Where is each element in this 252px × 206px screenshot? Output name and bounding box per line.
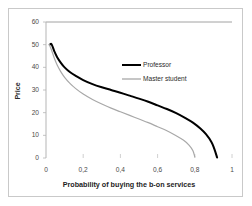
y-tick-label: 40: [21, 63, 39, 70]
y-tick-label: 50: [21, 41, 39, 48]
y-tick-label: 30: [21, 86, 39, 93]
legend-label-master-student: Master student: [143, 75, 187, 82]
y-tick-label: 20: [21, 109, 39, 116]
legend-label-professor: Professor: [143, 61, 171, 68]
x-tick-label: 0,6: [147, 166, 169, 173]
x-tick-label: 0: [35, 166, 57, 173]
series-line-professor: [50, 44, 217, 158]
series-line-master-student: [49, 45, 194, 157]
demand-curve-chart: [0, 0, 252, 206]
series-paths: [49, 44, 217, 158]
y-tick-label: 0: [21, 154, 39, 161]
x-tick-label: 0,8: [184, 166, 206, 173]
x-tick-label: 0,2: [72, 166, 94, 173]
x-tick-label: 0,4: [109, 166, 131, 173]
legend-swatches: [122, 65, 141, 79]
x-axis-title: Probability of buying the b-on services: [34, 180, 224, 189]
y-tick-label: 10: [21, 131, 39, 138]
x-tick-label: 1: [221, 166, 243, 173]
y-tick-label: 60: [21, 18, 39, 25]
x-axis-ticks: [83, 154, 232, 158]
